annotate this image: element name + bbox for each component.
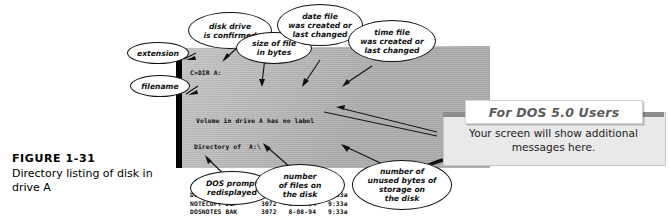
figure-root: C>DIR A: Volume in drive A has no label …	[0, 0, 669, 217]
dos-note-body: Your screen will show additional message…	[443, 124, 664, 154]
callout-unused-bytes: number of unused bytes of storage on the…	[352, 160, 452, 210]
figure-number: FIGURE 1-31	[12, 152, 162, 165]
terminal-directory-line: Directory of A:\	[190, 143, 480, 152]
callout-files-label: number of files on the disk	[279, 172, 322, 199]
figure-caption-text: Directory listing of disk in drive A	[12, 167, 162, 194]
callout-number-of-files: number of files on the disk	[255, 164, 345, 206]
callout-extension: extension	[127, 42, 189, 64]
dos-note-title-tab: For DOS 5.0 Users	[465, 100, 643, 124]
terminal-command-line: C>DIR A:	[190, 69, 480, 78]
callout-filename: filename	[130, 75, 190, 97]
callout-size-label: size of file in bytes	[252, 39, 296, 57]
callout-time-file: time file was created or last changed	[348, 20, 436, 62]
callout-date-label: date file was created or last changed	[288, 12, 352, 39]
dos-note-title: For DOS 5.0 Users	[489, 105, 620, 120]
callout-unused-label: number of unused bytes of storage on the…	[368, 167, 437, 203]
table-row: DOSNOTES BAK 3072 8-08-94 9:33a	[190, 208, 480, 217]
callout-extension-label: extension	[137, 49, 179, 58]
figure-caption: FIGURE 1-31 Directory listing of disk in…	[12, 152, 162, 194]
callout-time-label: time file was created or last changed	[360, 28, 424, 55]
callout-dos-prompt-label: DOS prompt redisplayed	[206, 179, 258, 197]
terminal-volume-line: Volume in drive A has no label	[190, 117, 480, 126]
callout-filename-label: filename	[141, 82, 178, 91]
dos-note-body-wrap: Your screen will show additional message…	[443, 124, 664, 164]
